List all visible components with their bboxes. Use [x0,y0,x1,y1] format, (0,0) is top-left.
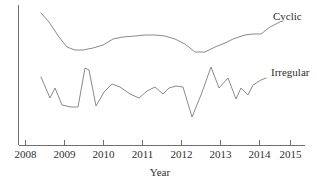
x-tick-label-2008: 2008 [15,148,38,160]
x-tick-label-2012: 2012 [171,148,193,160]
x-tick-label-2011: 2011 [132,148,154,160]
chart-canvas: 2008 2009 2010 2011 2012 2013 2014 2015 … [0,0,317,185]
x-axis-ticks [26,140,291,145]
x-tick-label-2009: 2009 [54,148,77,160]
x-tick-labels: 2008 2009 2010 2011 2012 2013 2014 2015 [15,148,303,160]
line-chart: 2008 2009 2010 2011 2012 2013 2014 2015 … [0,0,317,185]
series-label-cyclic: Cyclic [273,10,302,22]
series-line-cyclic [41,13,280,52]
x-tick-label-2014: 2014 [249,148,272,160]
x-tick-label-2013: 2013 [210,148,233,160]
series-label-irregular: Irregular [271,66,310,78]
x-tick-label-2015: 2015 [280,148,303,160]
x-axis-title: Year [150,166,171,178]
x-tick-label-2010: 2010 [93,148,116,160]
series-line-irregular [41,67,266,117]
